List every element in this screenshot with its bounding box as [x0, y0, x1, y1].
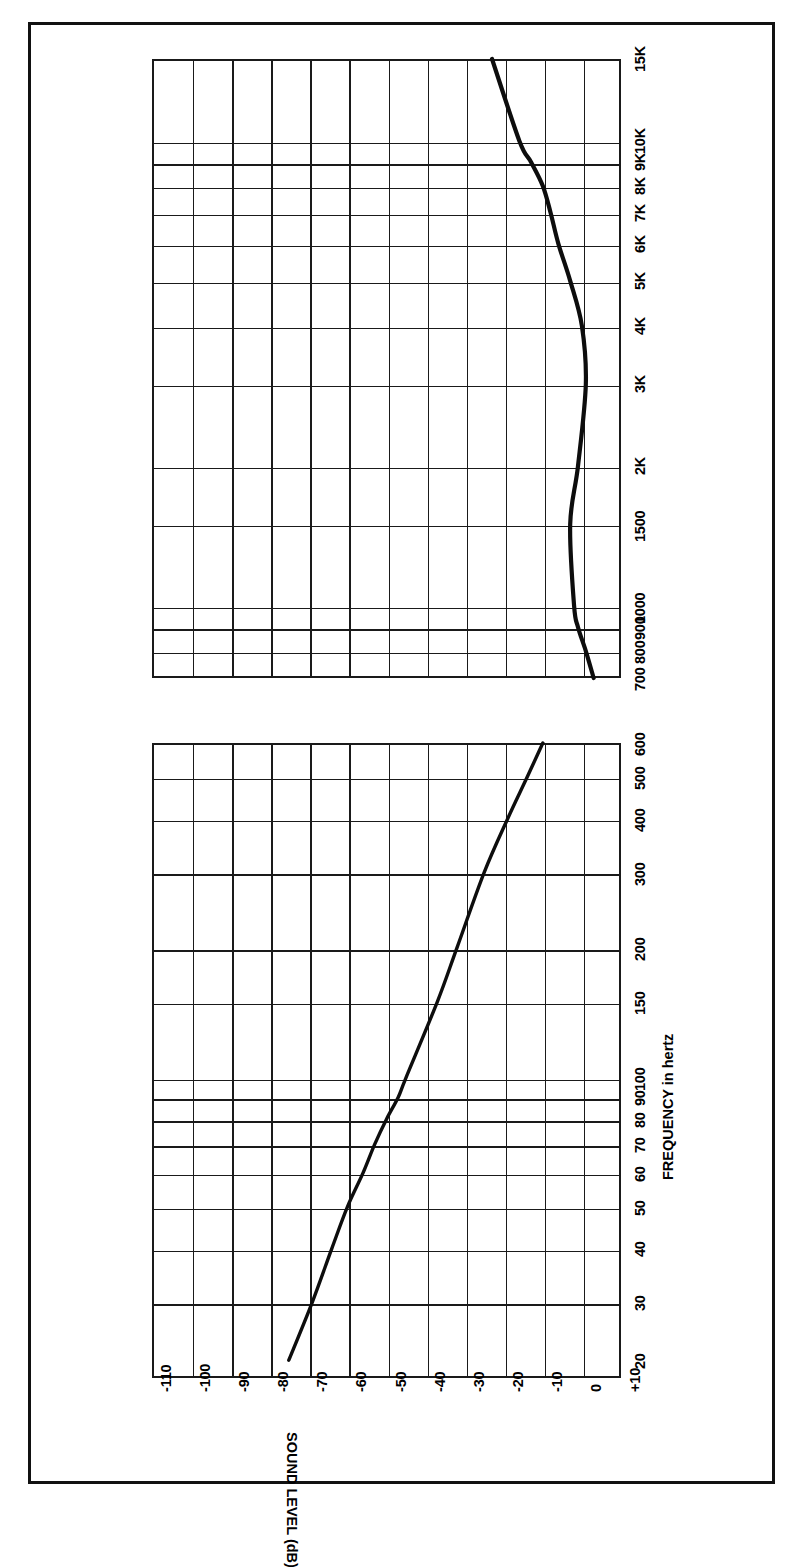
- grid-line-horizontal: [154, 164, 619, 165]
- grid-line-horizontal: [154, 1099, 619, 1100]
- grid-line-vertical: [389, 745, 390, 1376]
- grid-line-vertical: [584, 61, 585, 676]
- grid-line-horizontal: [154, 246, 619, 247]
- sound-level-tick-label: -40: [432, 1372, 448, 1392]
- frequency-tick-label: 800: [632, 641, 648, 665]
- grid-line-vertical: [193, 61, 194, 676]
- sound-level-tick-label: -20: [510, 1372, 526, 1392]
- grid-line-horizontal: [154, 1304, 619, 1305]
- sound-level-tick-label: -100: [197, 1364, 213, 1392]
- grid-line-vertical: [310, 745, 311, 1376]
- sound-level-tick-label: -30: [471, 1372, 487, 1392]
- grid-line-vertical: [545, 745, 546, 1376]
- grid-line-vertical: [271, 61, 272, 676]
- grid-line-horizontal: [154, 468, 619, 469]
- grid-line-horizontal: [154, 608, 619, 609]
- frequency-tick-label: 90: [632, 1090, 648, 1106]
- grid-line-horizontal: [154, 874, 619, 875]
- frequency-tick-label: 70: [632, 1137, 648, 1153]
- grid-line-vertical: [428, 745, 429, 1376]
- frequency-tick-label: 8K: [632, 177, 648, 195]
- frequency-tick-label: 50: [632, 1200, 648, 1216]
- grid-line-vertical: [584, 745, 585, 1376]
- frequency-tick-label: 150: [632, 991, 648, 1015]
- grid-line-horizontal: [154, 215, 619, 216]
- grid-line-vertical: [506, 745, 507, 1376]
- grid-line-vertical: [310, 61, 311, 676]
- sound-level-tick-label: -50: [393, 1372, 409, 1392]
- low-frequency-plot-area: [152, 743, 621, 1378]
- frequency-tick-label: 3K: [632, 375, 648, 393]
- grid-line-horizontal: [154, 188, 619, 189]
- grid-line-vertical: [467, 61, 468, 676]
- grid-line-horizontal: [154, 1004, 619, 1005]
- sound-level-tick-label: -60: [353, 1372, 369, 1392]
- frequency-tick-label: 2K: [632, 457, 648, 475]
- grid-line-horizontal: [154, 1121, 619, 1122]
- grid-line-horizontal: [154, 283, 619, 284]
- grid-line-horizontal: [154, 629, 619, 630]
- grid-line-vertical: [193, 745, 194, 1376]
- frequency-tick-label: 500: [632, 767, 648, 791]
- sound-level-tick-label: -10: [549, 1372, 565, 1392]
- grid-line-vertical: [232, 745, 233, 1376]
- grid-line-vertical: [545, 61, 546, 676]
- grid-line-horizontal: [154, 1251, 619, 1252]
- grid-line-horizontal: [154, 1146, 619, 1147]
- grid-line-horizontal: [154, 386, 619, 387]
- frequency-tick-label: 100: [632, 1067, 648, 1091]
- high-frequency-plot-area: [152, 59, 621, 678]
- frequency-tick-label: 60: [632, 1166, 648, 1182]
- sound-level-tick-label: 0: [588, 1384, 604, 1392]
- frequency-tick-label: 300: [632, 862, 648, 886]
- frequency-tick-label: 200: [632, 938, 648, 962]
- frequency-tick-label: 15K: [632, 46, 648, 72]
- frequency-tick-label: 700: [632, 668, 648, 692]
- x-axis-title: FREQUENCY in hertz: [660, 1034, 676, 1180]
- grid-line-vertical: [428, 61, 429, 676]
- sound-level-tick-label: +10: [627, 1368, 643, 1392]
- grid-line-horizontal: [154, 1080, 619, 1081]
- frequency-tick-label: 1000: [632, 592, 648, 623]
- frequency-tick-label: 20: [632, 1353, 648, 1369]
- sound-level-tick-label: -110: [158, 1365, 174, 1392]
- grid-line-horizontal: [154, 1209, 619, 1210]
- frequency-tick-label: 400: [632, 808, 648, 832]
- frequency-tick-label: 600: [632, 733, 648, 757]
- grid-line-horizontal: [154, 526, 619, 527]
- sound-level-tick-label: -80: [275, 1372, 291, 1392]
- grid-line-vertical: [232, 61, 233, 676]
- grid-line-horizontal: [154, 821, 619, 822]
- grid-line-vertical: [349, 61, 350, 676]
- grid-line-horizontal: [154, 328, 619, 329]
- frequency-tick-label: 1500: [632, 510, 648, 541]
- grid-line-horizontal: [154, 653, 619, 654]
- frequency-tick-label: 6K: [632, 235, 648, 253]
- frequency-tick-label: 7K: [632, 204, 648, 222]
- sound-level-tick-label: -90: [236, 1372, 252, 1392]
- frequency-tick-label: 80: [632, 1112, 648, 1128]
- grid-line-vertical: [467, 745, 468, 1376]
- grid-line-horizontal: [154, 1175, 619, 1176]
- y-axis-title: SOUND LEVEL (dB): [284, 1432, 300, 1568]
- frequency-tick-label: 30: [632, 1295, 648, 1311]
- grid-line-horizontal: [154, 143, 619, 144]
- frequency-tick-label: 5K: [632, 272, 648, 290]
- frequency-tick-label: 4K: [632, 317, 648, 335]
- frequency-tick-label: 40: [632, 1242, 648, 1258]
- frequency-tick-label: 10K: [632, 128, 648, 154]
- grid-line-vertical: [506, 61, 507, 676]
- grid-line-horizontal: [154, 950, 619, 951]
- grid-line-horizontal: [154, 779, 619, 780]
- sound-level-tick-label: -70: [314, 1372, 330, 1392]
- grid-line-vertical: [271, 745, 272, 1376]
- frequency-tick-label: 9K: [632, 153, 648, 171]
- grid-line-vertical: [349, 745, 350, 1376]
- grid-line-vertical: [389, 61, 390, 676]
